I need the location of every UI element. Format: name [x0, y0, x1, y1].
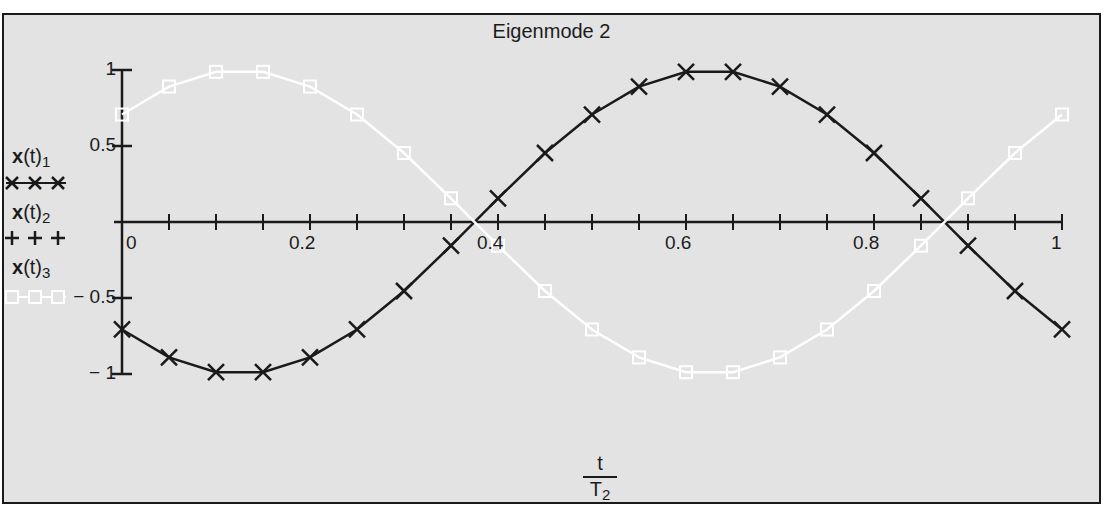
x-axis-label: t — [560, 452, 640, 476]
legend-arg: (t) — [23, 201, 42, 223]
legend-plus-marker — [5, 231, 19, 245]
legend-arg: (t) — [23, 256, 42, 278]
legend-plus-marker — [51, 231, 65, 245]
plot-area — [0, 0, 1103, 515]
x-marker — [960, 238, 976, 254]
y-tick-label: − 0.5 — [73, 286, 116, 308]
legend-arg: (t) — [23, 145, 42, 167]
legend-label-3: x(t)3 — [12, 256, 50, 281]
x-marker — [490, 190, 506, 206]
legend-var: x — [12, 201, 23, 223]
x-axis-label-numerator: t — [560, 452, 640, 476]
legend-label-2: x(t)2 — [12, 201, 50, 226]
legend-square-marker — [52, 291, 64, 303]
x-tick-label: 0 — [126, 232, 137, 254]
x-axis-label-denominator-wrap: T2 — [560, 478, 640, 503]
legend-var: x — [12, 145, 23, 167]
x-marker — [584, 107, 600, 123]
legend-square-marker — [6, 291, 18, 303]
x-marker — [537, 145, 553, 161]
legend-sub: 2 — [42, 209, 50, 226]
x-marker — [161, 349, 177, 365]
legend-label-1: x(t)1 — [12, 145, 50, 170]
x-axis-label-denominator: T2 — [560, 478, 640, 503]
x-marker — [866, 145, 882, 161]
x-marker — [302, 349, 318, 365]
y-tick-label: − 1 — [89, 362, 116, 384]
legend-sub: 3 — [42, 264, 50, 281]
x-tick-label: 0.6 — [665, 232, 691, 254]
legend-plus-marker — [28, 231, 42, 245]
x-tick-label: 0.8 — [853, 232, 879, 254]
x-marker — [396, 283, 412, 299]
x-marker — [913, 190, 929, 206]
x-marker — [349, 321, 365, 337]
x-marker — [1007, 283, 1023, 299]
x-marker — [443, 238, 459, 254]
x-marker — [772, 79, 788, 95]
x-tick-label: 0.4 — [477, 232, 503, 254]
x-marker — [1054, 321, 1070, 337]
x-marker — [819, 107, 835, 123]
legend-square-marker — [29, 291, 41, 303]
x-marker — [631, 79, 647, 95]
y-tick-label: 0.5 — [90, 134, 116, 156]
y-tick-label: 1 — [105, 58, 116, 80]
x-tick-label: 0.2 — [289, 232, 315, 254]
legend-sub: 1 — [42, 153, 50, 170]
legend-var: x — [12, 256, 23, 278]
chart-title: Eigenmode 2 — [0, 20, 1103, 43]
x-tick-label: 1 — [1051, 232, 1062, 254]
